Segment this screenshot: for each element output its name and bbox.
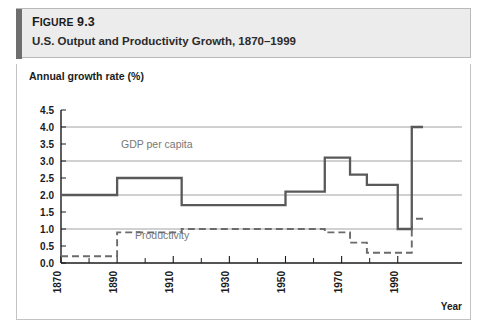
y-tick-label-2.5: 2.5 <box>40 173 54 184</box>
annotation-gdp-per-capita: GDP per capita <box>121 138 193 150</box>
x-tick-label-1970: 1970 <box>333 271 344 294</box>
figure-caption: U.S. Output and Productivity Growth, 187… <box>32 35 296 47</box>
figure-number: FIGURE 9.3 <box>32 15 95 29</box>
figure-number-prefix: F <box>32 15 40 29</box>
y-tick-label-3.0: 3.0 <box>40 156 54 167</box>
plot-svg: 4.54.03.53.02.52.01.51.00.50.0 187018901… <box>17 64 472 320</box>
y-tick-label-3.5: 3.5 <box>40 139 54 150</box>
y-tick-label-2.0: 2.0 <box>40 190 54 201</box>
y-tick-label-4.5: 4.5 <box>40 105 54 116</box>
header-accent-bar <box>16 9 22 59</box>
plot-frame: Annual growth rate (%) Year 4.54.03.53.0… <box>16 64 471 320</box>
series-line-productivity <box>61 219 423 256</box>
x-tick-label-1870: 1870 <box>52 271 63 294</box>
annotation-productivity: Productivity <box>135 229 190 241</box>
x-axis-ticks-group: 1870189019101930195019701990 <box>52 256 400 293</box>
figure-card: FIGURE 9.3 U.S. Output and Productivity … <box>16 8 471 320</box>
x-tick-label-1910: 1910 <box>164 271 175 294</box>
figure-header: FIGURE 9.3 U.S. Output and Productivity … <box>16 8 471 58</box>
y-tick-label-0.5: 0.5 <box>40 241 54 252</box>
figure-number-value: 9.3 <box>77 15 95 29</box>
series-line-gdp-per-capita <box>61 127 423 229</box>
y-tick-label-1.5: 1.5 <box>40 207 54 218</box>
chart-area: Annual growth rate (%) Year 4.54.03.53.0… <box>17 64 472 320</box>
series-lines-group <box>61 127 423 256</box>
figure-number-word: IGURE <box>40 16 74 28</box>
x-tick-label-1950: 1950 <box>276 271 287 294</box>
y-tick-label-4.0: 4.0 <box>40 122 54 133</box>
x-tick-label-1890: 1890 <box>108 271 119 294</box>
y-tick-label-0.0: 0.0 <box>40 258 54 269</box>
axes-group <box>61 110 462 263</box>
y-axis-ticks-group: 4.54.03.53.02.52.01.51.00.50.0 <box>40 105 66 269</box>
x-tick-label-1990: 1990 <box>389 271 400 294</box>
x-tick-label-1930: 1930 <box>220 271 231 294</box>
y-tick-label-1.0: 1.0 <box>40 224 54 235</box>
